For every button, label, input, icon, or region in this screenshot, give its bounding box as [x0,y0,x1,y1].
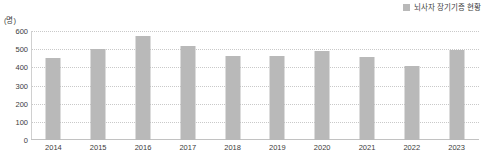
y-tick-0: 0 [2,136,28,145]
x-tick-2017: 2017 [165,143,210,157]
y-axis-tick-labels: 600 500 400 300 200 100 0 [0,31,28,140]
bar-slot-2021 [345,31,390,140]
legend-swatch-icon [403,4,410,11]
y-tick-300: 300 [2,81,28,90]
x-tick-2022: 2022 [389,143,434,157]
bar-slot-2015 [76,31,121,140]
bar-slot-2022 [389,31,434,140]
y-tick-200: 200 [2,99,28,108]
bar-chart: 뇌사자 장기기증 현황 (명) 600 500 400 300 200 100 … [0,0,485,166]
bar-2017[interactable] [180,46,195,140]
bar-2014[interactable] [46,58,61,140]
x-tick-2021: 2021 [345,143,390,157]
x-tick-2018: 2018 [210,143,255,157]
y-axis-unit-label: (명) [4,16,16,25]
x-tick-2016: 2016 [121,143,166,157]
bar-slot-2014 [31,31,76,140]
bar-2020[interactable] [315,51,330,140]
bar-2022[interactable] [404,66,419,140]
y-tick-100: 100 [2,117,28,126]
x-tick-2014: 2014 [31,143,76,157]
x-tick-2015: 2015 [76,143,121,157]
x-axis-tick-labels: 2014 2015 2016 2017 2018 2019 2020 2021 … [31,143,479,157]
y-tick-500: 500 [2,45,28,54]
plot-area [31,31,479,140]
x-tick-2023: 2023 [434,143,479,157]
bar-slot-2020 [300,31,345,140]
bar-2018[interactable] [225,56,240,140]
bar-2021[interactable] [359,57,374,140]
bar-slot-2016 [121,31,166,140]
y-tick-600: 600 [2,27,28,36]
bar-slot-2019 [255,31,300,140]
bar-2016[interactable] [135,36,150,140]
x-tick-2019: 2019 [255,143,300,157]
bar-slot-2023 [434,31,479,140]
bar-slot-2017 [165,31,210,140]
bar-series [31,31,479,140]
chart-legend: 뇌사자 장기기증 현황 [403,2,481,13]
x-tick-2020: 2020 [300,143,345,157]
bar-2015[interactable] [91,49,106,140]
legend-label-series-1: 뇌사자 장기기증 현황 [414,3,481,12]
bar-2019[interactable] [270,56,285,140]
bar-slot-2018 [210,31,255,140]
bar-2023[interactable] [449,50,464,140]
y-tick-400: 400 [2,63,28,72]
